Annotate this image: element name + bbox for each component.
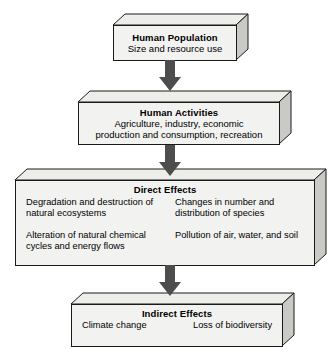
arrow-activities-to-direct <box>158 145 182 177</box>
box-front-face: Human Population Size and resource use <box>113 25 237 61</box>
box-title: Indirect Effects <box>76 308 278 319</box>
indirect-effects-right-column: Loss of biodiversity <box>177 320 278 331</box>
box-subtitle-line-2: production and consumption, recreation <box>79 129 279 140</box>
direct-effects-left-column: Degradation and destruction of natural e… <box>20 197 165 252</box>
effect-item: Alteration of natural chemical cycles an… <box>26 230 159 252</box>
box-front-face: Direct Effects Degradation and destructi… <box>15 180 315 266</box>
box-direct-effects: Direct Effects Degradation and destructi… <box>2 168 326 268</box>
box-top-face <box>71 293 294 304</box>
effect-item: Changes in number and distribution of sp… <box>175 197 306 219</box>
box-indirect-effects: Indirect Effects Climate change Loss of … <box>58 292 286 348</box>
down-arrow-icon <box>159 145 181 176</box>
down-arrow-icon <box>159 265 181 296</box>
box-front-face: Human Activities Agriculture, industry, … <box>78 102 280 145</box>
direct-effects-right-column: Changes in number and distribution of sp… <box>165 197 310 252</box>
box-subtitle-line-1: Agriculture, industry, economic <box>79 118 279 129</box>
box-subtitle: Size and resource use <box>114 43 236 54</box>
indirect-effects-left-column: Climate change <box>76 320 177 331</box>
down-arrow-icon <box>159 60 181 91</box>
box-title: Direct Effects <box>20 184 310 195</box>
box-human-activities: Human Activities Agriculture, industry, … <box>65 90 279 146</box>
arrow-population-to-activities <box>158 60 182 92</box>
box-side-face <box>314 169 326 265</box>
box-title: Human Activities <box>79 107 279 118</box>
box-human-population: Human Population Size and resource use <box>100 13 236 61</box>
arrow-direct-to-indirect <box>158 265 182 297</box>
effect-item: Degradation and destruction of natural e… <box>26 197 159 219</box>
effect-item: Climate change <box>82 320 177 331</box>
flow-diagram: Human Population Size and resource use H… <box>0 0 336 354</box>
box-top-face <box>78 91 291 102</box>
box-top-face <box>113 14 248 25</box>
effect-item: Loss of biodiversity <box>193 320 278 331</box>
effect-item: Pollution of air, water, and soil <box>175 230 306 241</box>
box-front-face: Indirect Effects Climate change Loss of … <box>71 304 283 347</box>
box-title: Human Population <box>114 32 236 43</box>
